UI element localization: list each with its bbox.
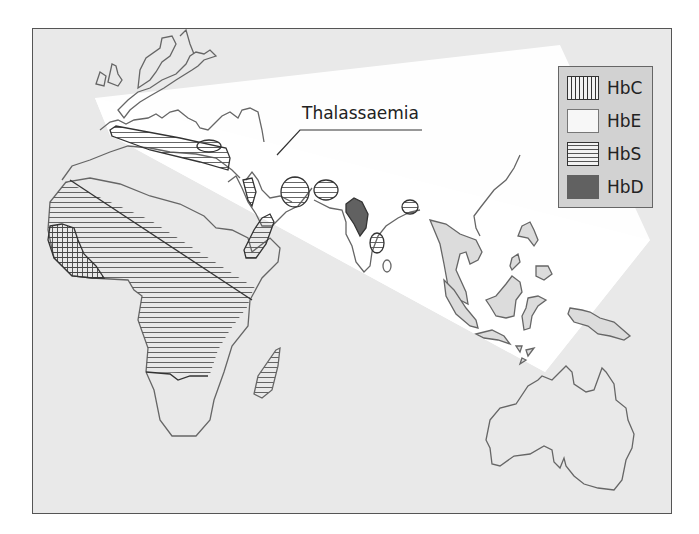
hbs-swatch — [567, 142, 599, 166]
hbe-swatch — [567, 109, 599, 133]
hbd-swatch — [567, 175, 599, 199]
madagascar-hbs — [254, 348, 280, 398]
legend-item-hbs: HbS — [567, 141, 641, 167]
legend: HbC HbE HbS HbD — [558, 66, 653, 208]
legend-item-hbe: HbE — [567, 108, 641, 134]
legend-item-hbd: HbD — [567, 174, 644, 200]
hbc-swatch — [567, 76, 599, 100]
turkey-hbs — [197, 140, 221, 152]
australia — [486, 366, 634, 490]
legend-label: HbE — [607, 111, 641, 131]
legend-item-hbc: HbC — [567, 75, 642, 101]
thalassaemia-label: Thalassaemia — [302, 103, 419, 123]
pakistan-hbs — [314, 180, 338, 200]
iran-hbs — [281, 177, 309, 207]
bangladesh-hbs — [402, 200, 418, 214]
legend-label: HbD — [607, 177, 644, 197]
legend-label: HbC — [607, 78, 642, 98]
legend-label: HbS — [607, 144, 641, 164]
south-india-hbs — [370, 233, 384, 253]
